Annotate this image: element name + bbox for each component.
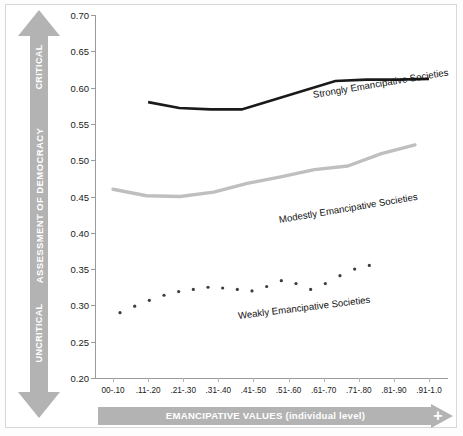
series-dot-weak — [294, 282, 297, 285]
y-tick-label: 0.30 — [71, 300, 90, 311]
series-dot-weak — [353, 268, 356, 271]
y-axis-arrow — [17, 10, 61, 418]
y-tick-label: 0.55 — [71, 118, 90, 129]
x-tick-mark — [218, 378, 219, 382]
series-line-modest — [113, 145, 415, 197]
x-tick-mark — [148, 378, 149, 382]
y-tick-label: 0.40 — [71, 227, 90, 238]
x-tick-label: .71-.80 — [346, 386, 372, 395]
series-dot-weak — [206, 286, 209, 289]
y-tick-label: 0.60 — [71, 82, 90, 93]
x-tick-mark — [429, 378, 430, 382]
series-dot-weak — [177, 290, 180, 293]
x-tick-mark — [324, 378, 325, 382]
y-tick-label: 0.25 — [71, 336, 90, 347]
series-dot-weak — [221, 286, 224, 289]
x-tick-mark — [253, 378, 254, 382]
series-dot-weak — [338, 274, 341, 277]
series-dot-weak — [162, 294, 165, 297]
series-dot-weak — [236, 288, 239, 291]
x-tick-label: .61-.70 — [311, 386, 337, 395]
x-axis-arrow — [98, 404, 453, 428]
y-tick-label: 0.50 — [71, 155, 90, 166]
y-tick-label: 0.35 — [71, 264, 90, 275]
x-tick-mark — [113, 378, 114, 382]
series-dot-weak — [280, 279, 283, 282]
x-tick-label: .41-.50 — [241, 386, 267, 395]
x-tick-label: .21-.30 — [170, 386, 196, 395]
x-tick-label: 00-.10 — [101, 386, 124, 395]
x-tick-mark — [394, 378, 395, 382]
x-tick-label: .81-.90 — [381, 386, 407, 395]
series-dot-weak — [265, 285, 268, 288]
x-tick-label: .11-.20 — [136, 386, 161, 395]
series-dot-weak — [192, 288, 195, 291]
y-tick-label: 0.70 — [71, 10, 90, 21]
x-tick-mark — [289, 378, 290, 382]
x-tick-label: .51-.60 — [276, 386, 302, 395]
series-dot-weak — [133, 305, 136, 308]
plot-area: Strongly Emancipative Societies Modestly… — [95, 15, 447, 378]
y-tick-label: 0.45 — [71, 191, 90, 202]
x-tick-mark — [183, 378, 184, 382]
series-dot-weak — [309, 288, 312, 291]
series-dot-weak — [250, 289, 253, 292]
y-tick-label: 0.20 — [71, 373, 90, 384]
x-tick-label: .91-1.0 — [416, 386, 442, 395]
x-axis-ticks: 00-.10.11-.20.21-.30.31-.40.41-.50.51-.6… — [95, 378, 447, 400]
series-dot-weak — [324, 282, 327, 285]
x-tick-label: .31-.40 — [206, 386, 232, 395]
series-dot-weak — [368, 264, 371, 267]
x-tick-mark — [359, 378, 360, 382]
series-dot-weak — [148, 299, 151, 302]
series-dot-weak — [118, 311, 121, 314]
y-tick-label: 0.65 — [71, 46, 90, 57]
chart-figure: CRITICAL ASSESSMENT OF DEMOCRACY UNCRITI… — [0, 0, 463, 436]
